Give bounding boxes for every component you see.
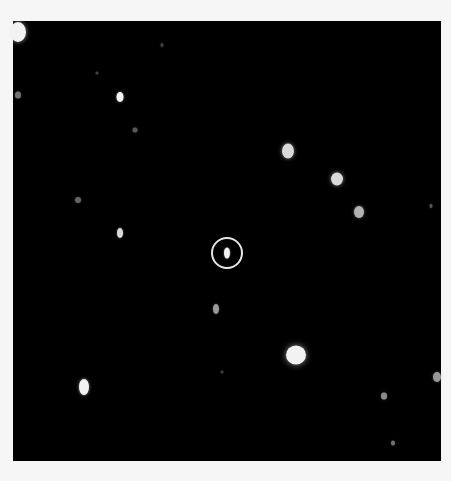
bright-spot xyxy=(286,346,306,365)
bright-spot xyxy=(15,92,21,99)
bright-spot xyxy=(381,393,387,400)
bright-spot xyxy=(282,144,294,159)
bright-spot xyxy=(96,72,99,75)
bright-spot xyxy=(221,371,224,374)
bright-spot xyxy=(75,197,81,203)
bright-spot xyxy=(391,441,395,446)
bright-spot xyxy=(354,206,364,218)
bright-spot xyxy=(213,304,219,314)
selection-circle xyxy=(211,237,243,269)
bright-spot xyxy=(117,228,123,238)
bright-spot xyxy=(133,128,138,133)
bright-spot xyxy=(117,92,124,102)
bright-spot xyxy=(161,43,164,47)
bright-spot xyxy=(430,204,433,208)
bright-spot xyxy=(331,173,343,186)
bright-spot xyxy=(10,22,26,42)
bright-spot xyxy=(433,372,441,382)
bright-spot xyxy=(79,379,89,395)
